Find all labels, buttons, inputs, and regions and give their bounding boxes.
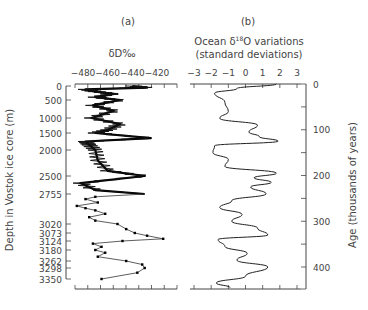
panel-a-series-discrete [77, 194, 163, 279]
panel-a-x-tick: −440 [120, 68, 145, 78]
panel-b-y-tick: 400 [313, 263, 330, 273]
panel-b-xlabel-line2: (standard deviations) [195, 49, 302, 60]
panel-a-y-tick: 3180 [39, 246, 62, 256]
panel-a-y-tick: 2000 [39, 146, 62, 156]
data-point [125, 260, 127, 262]
panel-b-y-tick: 300 [313, 217, 330, 227]
data-point [84, 198, 86, 200]
panel-a-ylabel: Depth in Vostok ice core (m) [4, 109, 15, 251]
panel-b-x-tick: 3 [294, 68, 300, 78]
panel-b-y-tick: 100 [313, 125, 330, 135]
panel-a-y-tick: 2755 [39, 190, 62, 200]
data-point [94, 209, 96, 211]
data-point [97, 256, 99, 258]
data-point [116, 223, 118, 225]
panel-a-y-tick: 1500 [39, 129, 62, 139]
panel-b-series [213, 84, 278, 288]
data-point [104, 213, 106, 215]
data-point [97, 201, 99, 203]
data-point [76, 205, 78, 207]
data-point [134, 232, 136, 234]
panel-b-x-tick: −3 [187, 68, 200, 78]
panel-a-y-tick: 0 [56, 82, 62, 92]
data-point [94, 249, 96, 251]
panel-b-x-tick: 0 [243, 68, 249, 78]
panel-a-label: (a) [121, 16, 135, 27]
data-point [94, 219, 96, 221]
plot-area: −480−460−440−420050010001500200025002755… [39, 68, 330, 289]
panel-a-y-tick: 3298 [39, 264, 62, 274]
data-point [121, 240, 123, 242]
vostok-chart: (a) (b) δD‰ Ocean δ18O variations (stand… [0, 0, 368, 310]
panel-b-y-tick: 200 [313, 171, 330, 181]
panel-b-ylabel: Age (thousands of years) [347, 122, 358, 248]
data-point [136, 272, 138, 274]
data-point [94, 196, 96, 198]
panel-a-y-tick: 1000 [39, 114, 62, 124]
panel-b-xlabel-line1: Ocean δ18O variations [194, 35, 303, 47]
data-point [104, 252, 106, 254]
panel-a-y-tick: 500 [45, 96, 62, 106]
panel-b-x-tick: 2 [277, 68, 283, 78]
data-point [100, 246, 102, 248]
data-point [141, 263, 143, 265]
data-point [146, 235, 148, 237]
panel-b-label: (b) [241, 16, 255, 27]
panel-a-y-tick: 3350 [39, 275, 62, 285]
data-point [162, 238, 164, 240]
panel-a-x-tick: −460 [95, 68, 120, 78]
data-point [125, 228, 127, 230]
data-point [84, 207, 86, 209]
data-point [100, 278, 102, 280]
panel-b-x-tick: 1 [260, 68, 266, 78]
panel-b-y-tick: 0 [313, 80, 319, 90]
data-point [92, 242, 94, 244]
data-point [144, 267, 146, 269]
panel-b-x-tick: −1 [222, 68, 235, 78]
panel-a-x-tick: −480 [71, 68, 96, 78]
panel-a-x-tick: −420 [145, 68, 170, 78]
panel-b-x-tick: −2 [205, 68, 218, 78]
panel-a-xlabel: δD‰ [108, 48, 135, 59]
data-point [88, 216, 90, 218]
panel-a-y-tick: 2500 [39, 172, 62, 182]
